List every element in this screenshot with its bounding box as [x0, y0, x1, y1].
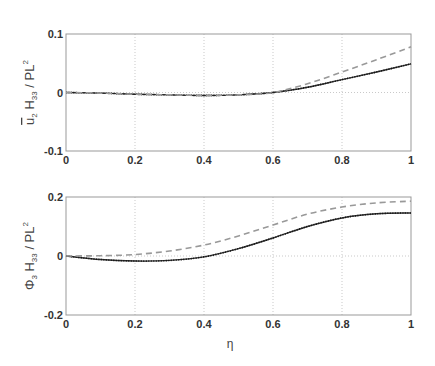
y-tick-label: -0.2 [44, 309, 63, 321]
x-tick-label: 1 [408, 154, 414, 166]
y-tick-label: 0 [57, 250, 63, 262]
y-tick-label: -0.1 [44, 145, 63, 157]
y-tick-label: 0 [57, 87, 63, 99]
x-tick-label: 0.8 [334, 154, 349, 166]
x-tick-label: 0.6 [265, 318, 280, 330]
subplot-1: 00.20.40.60.81-0.100.1u2 H33 / PL2 [21, 28, 414, 166]
x-axis-label: η [227, 337, 234, 351]
x-tick-label: 0 [63, 154, 69, 166]
x-tick-label: 0 [63, 318, 69, 330]
y-axis-label: u2 H33 / PL2 [21, 60, 39, 125]
x-tick-label: 0.2 [127, 154, 142, 166]
y-axis-label: Φ3 H33 / PL2 [21, 221, 39, 289]
subplot-2: 00.20.40.60.81-0.200.2Φ3 H33 / PL2η [21, 191, 414, 351]
series-solid-line [66, 213, 411, 261]
series-dashed-line [66, 47, 411, 96]
x-tick-label: 0.6 [265, 154, 280, 166]
chart-figure: 00.20.40.60.81-0.100.1u2 H33 / PL200.20.… [0, 0, 435, 366]
x-tick-label: 0.2 [127, 318, 142, 330]
x-tick-label: 0.4 [196, 318, 212, 330]
series-solid-line [66, 64, 411, 96]
series-dotted-line [66, 64, 411, 96]
y-tick-label: 0.1 [48, 28, 63, 40]
x-tick-label: 0.8 [334, 318, 349, 330]
x-tick-label: 1 [408, 318, 414, 330]
y-tick-label: 0.2 [48, 191, 63, 203]
x-tick-label: 0.4 [196, 154, 212, 166]
series-dashed-line [66, 201, 411, 256]
series-dotted-line [66, 213, 411, 261]
